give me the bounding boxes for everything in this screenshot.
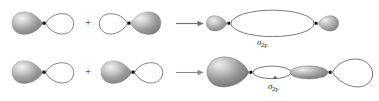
nucleus-dot [43,22,46,25]
p-orbital-term-2 [101,61,163,83]
empty-lobe [99,14,127,34]
nucleus-dot [127,22,130,25]
empty-lobe [46,63,74,83]
empty-lobe [46,14,74,34]
nucleus-dot-right [315,22,318,25]
reaction-arrow [176,21,204,26]
sigma-subscript: 2p [272,85,279,92]
inner-shaded-lobe [290,66,328,79]
left-large-shaded-lobe [207,57,249,87]
sigma-2p-antibonding-orbital [207,57,373,87]
plus-operator: + [85,66,91,77]
nucleus-dot-left [249,71,252,74]
sigma-2p-bonding-orbital [206,10,338,36]
right-large-empty-lobe [333,59,373,87]
shaded-lobe [131,12,161,34]
plus-operator: + [85,17,91,28]
nucleus-dot-right [329,71,332,74]
bonding-row-graphics [0,0,379,52]
left-end-lobe [206,16,227,31]
empty-lobe [135,63,163,83]
nucleus-dot-left [227,22,230,25]
central-empty-lobe [231,10,314,36]
nucleus-dot [43,71,46,74]
sigma-2p-label: σ2p [257,38,268,47]
antibonding-row-graphics [0,52,379,101]
p-orbital-term-1 [12,61,74,83]
sigma-star-2p-label: σ2p* [268,82,279,91]
subscript-star-group: 2p* [272,82,279,91]
bonding-combination-row: + σ2p [0,0,379,52]
antibonding-star: * [273,76,277,84]
sigma-subscript: 2p [261,41,268,48]
nucleus-dot [132,71,135,74]
shaded-lobe [12,12,42,34]
p-orbital-term-2 [99,12,161,34]
shaded-lobe [101,61,131,83]
p-orbital-term-1 [12,12,74,34]
right-end-lobe [318,16,339,31]
antibonding-combination-row: + σ2p* [0,52,379,101]
molecular-orbital-figure: + σ2p [0,0,379,101]
shaded-lobe [12,61,42,83]
reaction-arrow [176,70,204,75]
